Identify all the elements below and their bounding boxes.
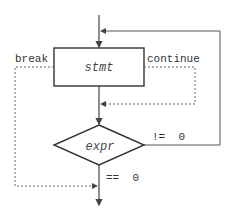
- continue-label: continue: [147, 53, 200, 65]
- break-arrowhead: [92, 183, 98, 189]
- continue-arrowhead: [100, 101, 106, 107]
- break-label: break: [15, 53, 48, 65]
- condition-label: expr: [86, 140, 115, 154]
- loop-back-arrowhead: [100, 28, 106, 34]
- not-zero-label: != 0: [152, 131, 185, 143]
- statement-label: stmt: [85, 61, 114, 75]
- flowchart: stmt continue break expr != 0 == 0: [0, 0, 234, 219]
- equals-zero-label: == 0: [106, 172, 139, 184]
